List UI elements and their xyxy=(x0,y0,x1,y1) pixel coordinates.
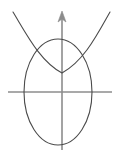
figure-background xyxy=(0,0,119,154)
math-figure xyxy=(0,0,119,154)
figure-canvas xyxy=(0,0,119,154)
